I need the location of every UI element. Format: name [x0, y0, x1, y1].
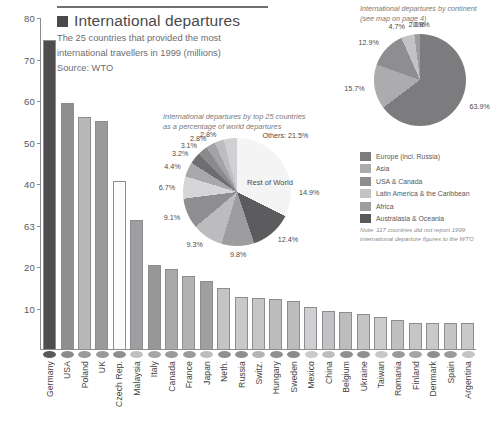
- y-axis-tick-label: 60: [24, 96, 35, 107]
- bar: [130, 220, 143, 349]
- legend-color-swatch-icon: [360, 214, 371, 223]
- country-marker-icon: [357, 351, 370, 358]
- y-axis-tick-mark: [37, 184, 40, 185]
- legend-note-line2: international departure figures to the W…: [360, 235, 474, 242]
- legend-item-label: Australasia & Oceania: [376, 215, 444, 222]
- x-axis-tick-label: Finland: [411, 361, 421, 390]
- y-axis-tick-mark: [37, 101, 40, 102]
- x-axis-tick-label: Switz.: [254, 361, 264, 385]
- x-axis-tick-label: Poland: [80, 361, 90, 388]
- top25-pie-title-line1: International departures by top 25 count…: [163, 112, 306, 121]
- x-axis-tick-label: Russia: [237, 361, 247, 388]
- pie-slice-label: 9.1%: [164, 212, 180, 221]
- country-marker-icon: [340, 351, 353, 358]
- bar: [391, 320, 404, 349]
- x-axis-category: Germany: [41, 350, 58, 423]
- pie-slice-label: 9.8%: [230, 249, 246, 258]
- legend-item-label: Latin America & the Caribbean: [376, 190, 469, 197]
- legend-item: Africa: [360, 202, 486, 211]
- legend-note: Note: 117 countries did not report 1999 …: [360, 226, 484, 243]
- continent-pie-title-line1: International departures by continent: [360, 4, 477, 13]
- x-axis-tick-label: Italy: [149, 361, 159, 377]
- country-marker-icon: [78, 351, 91, 358]
- source-text: Source: WTO: [57, 62, 272, 75]
- bar: [200, 281, 213, 349]
- subtitle-line-1: The 25 countries that provided the most: [57, 32, 272, 45]
- x-axis-category: Hungary: [268, 350, 285, 423]
- x-axis-tick-label: Hungary: [271, 361, 281, 394]
- top25-pie-container: International departures by top 25 count…: [163, 112, 338, 257]
- legend-swatch-icon: [57, 16, 68, 27]
- x-axis-tick-label: USA: [62, 361, 72, 379]
- pie-slice-label: 0.8%: [413, 20, 429, 29]
- country-marker-icon: [235, 351, 248, 358]
- continent-pie-container: International departures by continent (s…: [352, 4, 486, 149]
- legend-note-line1: Note: 117 countries did not report 1999: [360, 226, 465, 233]
- x-axis-category: Japan: [198, 350, 215, 423]
- pie-slice-label: 6.7%: [159, 182, 175, 191]
- pie-slice-label: 9.3%: [187, 239, 203, 248]
- x-axis-category: Malaysia: [128, 350, 145, 423]
- x-axis-tick-label: Malaysia: [132, 361, 142, 396]
- x-axis-tick-label: Sweden: [289, 361, 299, 393]
- country-marker-icon: [113, 351, 126, 358]
- title-rule: [57, 6, 268, 8]
- x-axis-category: Canada: [163, 350, 180, 423]
- country-marker-icon: [462, 351, 475, 358]
- x-axis-category: Argentina: [460, 350, 477, 423]
- y-axis-tick-mark: [37, 309, 40, 310]
- y-axis-tick-mark: [37, 60, 40, 61]
- top25-pie: [183, 138, 291, 246]
- pie-slice-label: 4.4%: [164, 161, 180, 170]
- legend-color-swatch-icon: [360, 164, 371, 173]
- x-axis-category: Switz.: [250, 350, 267, 423]
- pie-slice-label: Others: 21.5%: [263, 131, 309, 140]
- y-axis-tick-mark: [37, 18, 40, 19]
- x-axis-category: Taiwan: [372, 350, 389, 423]
- country-marker-icon: [183, 351, 196, 358]
- x-axis-category: Neth.: [215, 350, 232, 423]
- x-axis-tick-label: Denmark: [428, 361, 438, 397]
- x-axis-tick-label: Belgium: [341, 361, 351, 393]
- y-axis-tick-label: 50: [24, 137, 35, 148]
- x-axis-tick-label: Argentina: [463, 361, 473, 399]
- pie-slice-label: 15.7%: [344, 84, 364, 93]
- bar: [287, 301, 300, 349]
- chart-title-block: International departures The 25 countrie…: [57, 6, 272, 74]
- y-axis-tick-label: 10: [24, 303, 35, 314]
- bar: [304, 307, 317, 349]
- title-row: International departures: [57, 12, 272, 30]
- x-axis-tick-label: Taiwan: [376, 361, 386, 388]
- bar: [269, 299, 282, 349]
- x-axis-tick-label: Mexico: [306, 361, 316, 389]
- country-marker-icon: [427, 351, 440, 358]
- bar: [374, 317, 387, 349]
- legend-item: Australasia & Oceania: [360, 214, 486, 223]
- pie-slice-label: 4.7%: [389, 22, 405, 31]
- country-marker-icon: [200, 351, 213, 358]
- x-axis-label-group: GermanyUSAPolandUKCzech Rep.MalaysiaItal…: [41, 350, 477, 423]
- legend-color-swatch-icon: [360, 202, 371, 211]
- pie-slice-label: 12.4%: [278, 234, 298, 243]
- bar: [444, 323, 457, 349]
- x-axis-tick-label: Spain: [446, 361, 456, 383]
- rest-of-world-label: Rest of World: [247, 178, 293, 187]
- legend-item: Asia: [360, 164, 486, 173]
- x-axis-category: Romania: [390, 350, 407, 423]
- bar: [357, 314, 370, 349]
- x-axis-category: Denmark: [425, 350, 442, 423]
- continent-pie: [374, 34, 466, 126]
- bar: [339, 312, 352, 349]
- legend-item-label: Europe (incl. Russia): [376, 153, 440, 160]
- x-axis-tick-label: Canada: [167, 361, 177, 392]
- bar: [165, 269, 178, 350]
- legend-item-label: Africa: [376, 203, 394, 210]
- bar-slot: [41, 18, 58, 349]
- y-axis-tick-mark: [37, 267, 40, 268]
- x-axis-category: Spain: [442, 350, 459, 423]
- x-axis-category: Belgium: [337, 350, 354, 423]
- y-axis-tick-label: 40: [24, 179, 35, 190]
- country-marker-icon: [61, 351, 74, 358]
- x-axis-category: Sweden: [285, 350, 302, 423]
